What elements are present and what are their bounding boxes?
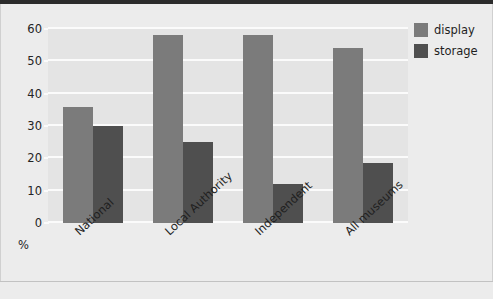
figure-bottom-border — [0, 281, 493, 282]
legend-item: display — [414, 23, 486, 37]
bar-display-independent — [243, 35, 273, 223]
y-axis-tick-label: 20 — [12, 153, 42, 164]
legend-item: storage — [414, 44, 486, 58]
y-axis-tick-labels: 6050403020100 — [8, 29, 42, 223]
y-axis-tick-label: 0 — [12, 218, 42, 229]
figure-left-border — [0, 4, 1, 282]
y-axis-tick-label: 60 — [12, 24, 42, 35]
chart-legend: displaystorage — [414, 23, 486, 65]
bar-display-national — [63, 107, 93, 223]
bar-chart-figure: 6050403020100 % NationalLocal AuthorityI… — [0, 0, 493, 299]
bar-display-local-authority — [153, 35, 183, 223]
y-axis-label: % — [18, 238, 29, 252]
bar-display-all-museums — [333, 48, 363, 223]
gridline — [48, 27, 408, 29]
y-axis-tick-label: 10 — [12, 186, 42, 197]
figure-top-border — [0, 0, 493, 4]
legend-label-storage: storage — [434, 45, 478, 57]
plot-area — [48, 29, 408, 223]
legend-label-display: display — [434, 24, 475, 36]
y-axis-tick-label: 40 — [12, 89, 42, 100]
legend-swatch-display — [414, 23, 428, 37]
y-axis-tick-label: 50 — [12, 56, 42, 67]
y-axis-tick-label: 30 — [12, 121, 42, 132]
legend-swatch-storage — [414, 44, 428, 58]
